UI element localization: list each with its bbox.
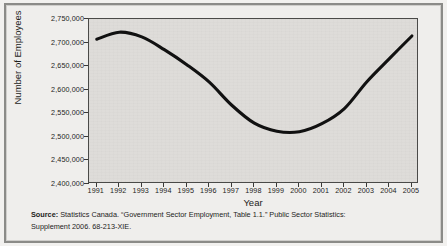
x-axis-label: 1999 <box>268 186 284 195</box>
x-axis-label: 1993 <box>133 186 149 195</box>
x-axis-label: 1996 <box>200 186 216 195</box>
y-axis-label: 2,500,000 <box>38 131 84 140</box>
y-axis-tick-labels: 2,750,0002,700,0002,650,0002,600,0002,55… <box>38 0 84 205</box>
source-line-1: Statistics Canada. “Government Sector Em… <box>58 210 345 219</box>
x-axis-label: 2002 <box>335 186 351 195</box>
x-axis-label: 2003 <box>358 186 374 195</box>
x-axis-label: 2005 <box>403 186 419 195</box>
source-note: Source: Statistics Canada. “Government S… <box>31 209 421 232</box>
source-label: Source: <box>31 210 58 219</box>
x-axis-label: 2000 <box>290 186 306 195</box>
x-axis-label: 1992 <box>110 186 126 195</box>
x-axis-label: 1998 <box>245 186 261 195</box>
x-axis-label: 1997 <box>223 186 239 195</box>
x-axis-label: 1991 <box>88 186 104 195</box>
figure-container: Number of Employees 2,750,0002,700,0002,… <box>0 0 447 246</box>
x-axis-label: 1994 <box>155 186 171 195</box>
y-axis-label: 2,450,000 <box>38 155 84 164</box>
y-axis-label: 2,550,000 <box>38 108 84 117</box>
y-axis-label: 2,650,000 <box>38 61 84 70</box>
x-axis-title: Year <box>88 197 418 208</box>
y-axis-label: 2,400,000 <box>38 179 84 188</box>
line-chart: Number of Employees 2,750,0002,700,0002,… <box>0 0 447 205</box>
y-axis-title: Number of Employees <box>12 0 23 118</box>
y-axis-label: 2,600,000 <box>38 84 84 93</box>
y-axis-label: 2,700,000 <box>38 37 84 46</box>
data-series-line <box>89 19 419 184</box>
x-axis-label: 2004 <box>380 186 396 195</box>
y-axis-label: 2,750,000 <box>38 14 84 23</box>
source-label-text: Source: <box>31 210 58 219</box>
x-axis-label: 2001 <box>313 186 329 195</box>
plot-area <box>88 18 418 183</box>
x-axis-label: 1995 <box>178 186 194 195</box>
source-line-2: Supplement 2006. 68-213-XIE. <box>31 222 131 231</box>
